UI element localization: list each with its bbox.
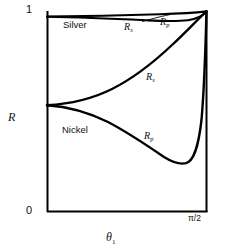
series-group-label-nickel: Nickel <box>62 125 88 135</box>
curve-label-nickel-rs-subscript: s <box>152 76 155 83</box>
x-axis-tick-right: π/2 <box>188 214 201 223</box>
y-axis-label: R <box>8 111 15 123</box>
curve-label-silver-rs-subscript: s <box>130 26 133 33</box>
y-axis-tick-bottom: 0 <box>26 205 32 216</box>
axis-lines <box>47 11 208 212</box>
curve-label-nickel-rs: Rs <box>146 72 155 82</box>
x-axis-label-subscript: 1 <box>112 238 116 246</box>
curve-label-silver-rp-subscript: p <box>166 21 169 28</box>
series-group-label-silver: Silver <box>63 20 87 30</box>
curve-silver-rs <box>47 11 207 16</box>
x-axis-label: θ1 <box>106 231 115 246</box>
curve-label-silver-rs: Rs <box>124 22 133 32</box>
curve-label-silver-rp: Rp <box>160 17 169 27</box>
y-axis-tick-top: 1 <box>26 4 32 15</box>
curve-label-nickel-rp: Rp <box>144 131 153 141</box>
curve-label-nickel-rp-subscript: p <box>150 135 153 142</box>
figure-root: 1 0 R θ1 π/2 Silver Nickel Rs Rp Rs Rp <box>0 0 227 250</box>
